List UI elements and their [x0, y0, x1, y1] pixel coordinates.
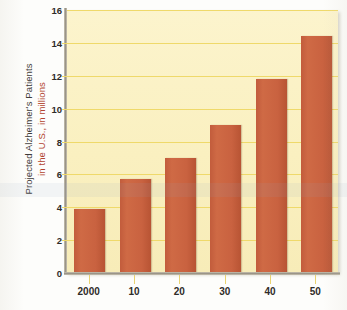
x-axis-tick-mark [134, 275, 135, 284]
y-axis-tick-mark [62, 207, 68, 208]
y-axis-tick-label: 0 [40, 268, 62, 279]
y-axis-tick-mark [62, 240, 68, 241]
y-axis-tick-label: 2 [40, 235, 62, 246]
bar [120, 179, 151, 273]
x-axis-line [64, 272, 340, 275]
y-axis-tick-labels: 0246810121416 [36, 0, 62, 310]
bar [301, 36, 332, 273]
bar-series [66, 10, 338, 273]
x-axis-tick-mark [179, 275, 180, 284]
x-axis-tick-label: 2000 [66, 286, 112, 297]
y-axis-tick-mark [62, 142, 68, 143]
y-axis-tick-label: 10 [40, 103, 62, 114]
y-axis-tick-mark [62, 76, 68, 77]
plot-area [66, 10, 338, 273]
y-axis-tick-label: 6 [40, 169, 62, 180]
bar [210, 125, 241, 273]
x-axis-tick-label: 10 [111, 286, 157, 297]
y-axis-tick-label: 8 [40, 136, 62, 147]
y-axis-tick-label: 14 [40, 37, 62, 48]
x-axis-tick-mark [270, 275, 271, 284]
x-axis-tick-label: 20 [156, 286, 202, 297]
y-axis-tick-mark [62, 109, 68, 110]
bar-chart-figure: Projected Alzheimer's Patients in the U.… [0, 0, 347, 310]
x-axis-tick-mark [89, 275, 90, 284]
x-axis-tick-label: 30 [202, 286, 248, 297]
y-axis-tick-label: 12 [40, 70, 62, 81]
y-axis-tick-mark [62, 174, 68, 175]
bar [165, 158, 196, 273]
bar [74, 209, 105, 273]
y-axis-tick-mark [62, 43, 68, 44]
x-axis-tick-mark [315, 275, 316, 284]
bar [256, 79, 287, 273]
y-axis-tick-label: 16 [40, 5, 62, 16]
plot-inner [66, 10, 338, 273]
x-axis-tick-mark [225, 275, 226, 284]
x-axis-tick-label: 50 [292, 286, 338, 297]
y-axis-tick-label: 4 [40, 202, 62, 213]
x-axis-tick-label: 40 [247, 286, 293, 297]
